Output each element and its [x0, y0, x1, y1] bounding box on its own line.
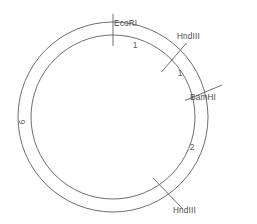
hindiii-top-label: HndIII — [177, 32, 200, 41]
hindiii-top-site-tick — [162, 43, 187, 72]
plasmid-map-svg: EcoRI HndIII BamHI HndIII 1 1 2 6 — [0, 0, 257, 224]
hindiii-bottom-label: HndIII — [173, 206, 196, 215]
fragment-label-3: 2 — [190, 142, 195, 152]
fragment-label-6: 6 — [17, 119, 27, 124]
restriction-map-figure: EcoRI HndIII BamHI HndIII 1 1 2 6 — [0, 0, 257, 224]
hindiii-bottom-site-tick — [153, 178, 183, 209]
bamhi-label: BamHI — [190, 93, 216, 102]
ecori-label: EcoRI — [114, 19, 137, 28]
fragment-label-2: 1 — [178, 68, 183, 78]
inner-ring-circle — [31, 35, 195, 199]
fragment-label-1: 1 — [133, 40, 138, 50]
